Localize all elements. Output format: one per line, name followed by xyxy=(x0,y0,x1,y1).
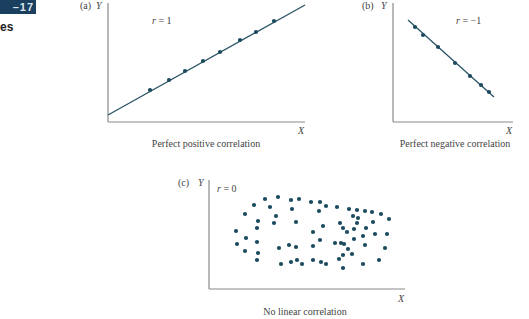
data-point xyxy=(234,229,238,233)
data-point xyxy=(487,90,491,94)
data-point xyxy=(333,241,337,245)
data-point xyxy=(167,78,171,82)
data-point xyxy=(256,219,260,223)
data-point xyxy=(294,220,298,224)
panel-caption: Perfect negative correlation xyxy=(400,138,511,149)
data-point xyxy=(317,209,321,213)
y-axis-label: Y xyxy=(198,177,205,188)
data-point xyxy=(290,207,294,211)
data-point xyxy=(183,69,187,73)
data-point xyxy=(218,50,222,54)
data-points xyxy=(148,19,276,92)
data-point xyxy=(272,19,276,23)
panel-a: (a)YXr = 1Perfect positive correlation xyxy=(80,0,305,149)
data-point xyxy=(383,246,387,250)
data-point xyxy=(294,245,298,249)
data-point xyxy=(335,205,339,209)
data-point xyxy=(272,221,276,225)
data-point xyxy=(255,226,259,230)
data-point xyxy=(289,260,293,264)
data-point xyxy=(373,232,377,236)
data-point xyxy=(235,242,239,246)
data-point xyxy=(254,30,258,34)
x-axis-label: X xyxy=(505,125,513,136)
data-point xyxy=(342,242,346,246)
correlation-coefficient-label: r = 1 xyxy=(152,15,172,26)
data-point xyxy=(356,216,360,220)
data-point xyxy=(337,257,341,261)
data-point xyxy=(350,252,354,256)
data-point xyxy=(318,238,322,242)
data-point xyxy=(363,209,367,213)
data-point xyxy=(255,258,259,262)
data-point xyxy=(436,45,440,49)
data-point xyxy=(355,221,359,225)
data-point xyxy=(324,262,328,266)
y-axis-label: Y xyxy=(381,0,388,11)
data-point xyxy=(479,83,483,87)
x-axis-label: X xyxy=(397,293,405,304)
data-point xyxy=(201,59,205,63)
panel-b: (b)YXr = −1Perfect negative correlation xyxy=(362,0,513,149)
data-point xyxy=(347,207,351,211)
data-point xyxy=(287,243,291,247)
data-point xyxy=(321,224,325,228)
data-point xyxy=(453,61,457,65)
data-point xyxy=(311,258,315,262)
data-point xyxy=(341,226,345,230)
data-point xyxy=(276,195,280,199)
data-point xyxy=(252,203,256,207)
data-point xyxy=(341,253,345,257)
panel-caption: No linear correlation xyxy=(263,306,346,317)
data-point xyxy=(277,246,281,250)
data-point xyxy=(361,234,365,238)
correlation-coefficient-label: r = 0 xyxy=(217,183,237,194)
data-point xyxy=(300,262,304,266)
y-axis-label: Y xyxy=(96,0,103,11)
data-point xyxy=(295,258,299,262)
data-point xyxy=(385,232,389,236)
panel-label: (c) xyxy=(178,177,189,189)
data-point xyxy=(255,240,259,244)
data-point xyxy=(338,221,342,225)
panel-label: (a) xyxy=(80,0,91,12)
data-point xyxy=(256,251,260,255)
data-point xyxy=(318,200,322,204)
data-point xyxy=(244,236,248,240)
panel-label: (b) xyxy=(362,0,374,12)
data-point xyxy=(346,247,350,251)
data-point xyxy=(341,266,345,270)
data-point xyxy=(309,200,313,204)
data-point xyxy=(364,226,368,230)
data-point xyxy=(345,230,349,234)
data-point xyxy=(468,74,472,78)
data-point xyxy=(238,38,242,42)
data-point xyxy=(421,33,425,37)
data-point xyxy=(289,198,293,202)
data-point xyxy=(311,230,315,234)
data-point xyxy=(274,214,278,218)
x-axis-label: X xyxy=(297,125,305,136)
data-point xyxy=(379,212,383,216)
data-point xyxy=(243,249,247,253)
data-point xyxy=(371,220,375,224)
data-point xyxy=(361,262,365,266)
data-point xyxy=(355,208,359,212)
data-point xyxy=(413,25,417,29)
correlation-figure: (a)YXr = 1Perfect positive correlation(b… xyxy=(0,0,529,319)
data-point xyxy=(243,212,247,216)
correlation-coefficient-label: r = −1 xyxy=(456,15,481,26)
data-point xyxy=(387,217,391,221)
data-point xyxy=(363,243,367,247)
data-point xyxy=(351,214,355,218)
panel-c: (c)YXr = 0No linear correlation xyxy=(178,177,405,317)
data-point xyxy=(352,227,356,231)
data-point xyxy=(352,237,356,241)
data-point xyxy=(324,204,328,208)
data-point xyxy=(279,262,283,266)
data-point xyxy=(319,260,323,264)
data-point xyxy=(311,244,315,248)
data-point xyxy=(377,258,381,262)
data-point xyxy=(297,197,301,201)
data-point xyxy=(268,205,272,209)
